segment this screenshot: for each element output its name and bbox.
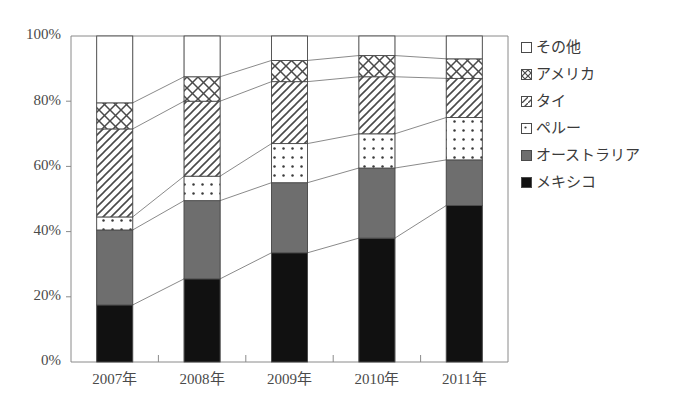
chart-legend: その他アメリカタイペルーオーストラリアメキシコ (521, 34, 673, 196)
bar-group[interactable] (272, 36, 308, 362)
legend-swatch-empty (521, 42, 532, 53)
y-tick-label: 0% (41, 352, 61, 368)
legend-label: オーストラリア (536, 148, 640, 163)
legend-label: メキシコ (536, 175, 596, 190)
bar-segment[interactable] (359, 238, 395, 362)
legend-label: その他 (536, 40, 581, 55)
stacked-bar-chart: 0%20%40%60%80%100%2007年2008年2009年2010年20… (0, 0, 675, 410)
y-tick-label: 60% (34, 157, 62, 173)
bar-segment[interactable] (446, 206, 482, 362)
bar-segment[interactable] (446, 118, 482, 160)
x-tick-label: 2010年 (354, 371, 399, 387)
legend-item[interactable]: オーストラリア (521, 142, 673, 169)
x-tick-label: 2009年 (267, 371, 312, 387)
bar-segment[interactable] (359, 77, 395, 134)
x-tick-label: 2007年 (92, 371, 137, 387)
bar-segment[interactable] (97, 129, 133, 217)
legend-swatch-diagonal (521, 96, 532, 107)
bar-segment[interactable] (184, 176, 220, 200)
y-tick-label: 20% (34, 287, 62, 303)
bar-segment[interactable] (359, 56, 395, 77)
bar-segment[interactable] (184, 101, 220, 176)
x-tick-label: 2008年 (180, 371, 225, 387)
bar-segment[interactable] (359, 134, 395, 168)
bar-segment[interactable] (184, 201, 220, 279)
bar-segment[interactable] (97, 36, 133, 103)
bar-segment[interactable] (97, 230, 133, 305)
legend-item[interactable]: ペルー (521, 115, 673, 142)
bar-group[interactable] (359, 36, 395, 362)
bar-segment[interactable] (446, 59, 482, 79)
bar-segment[interactable] (97, 217, 133, 230)
y-axis-ticks: 0%20%40%60%80%100% (26, 26, 71, 368)
legend-swatch-dotted (521, 123, 532, 134)
bar-group[interactable] (184, 36, 220, 362)
bar-segment[interactable] (272, 183, 308, 253)
legend-item[interactable]: メキシコ (521, 169, 673, 196)
bar-segment[interactable] (272, 36, 308, 60)
legend-swatch-crosshatch (521, 69, 532, 80)
legend-label: ペルー (536, 121, 581, 136)
bar-segment[interactable] (446, 36, 482, 59)
bar-segment[interactable] (272, 253, 308, 362)
legend-label: タイ (536, 94, 566, 109)
bar-segment[interactable] (184, 279, 220, 362)
chart-canvas: 0%20%40%60%80%100%2007年2008年2009年2010年20… (0, 0, 515, 410)
bar-segment[interactable] (184, 36, 220, 77)
x-tick-label: 2011年 (442, 371, 486, 387)
bar-group[interactable] (446, 36, 482, 362)
y-tick-label: 40% (34, 222, 62, 238)
bar-segment[interactable] (272, 82, 308, 144)
bar-segment[interactable] (184, 77, 220, 101)
legend-item[interactable]: タイ (521, 88, 673, 115)
bar-group[interactable] (97, 36, 133, 362)
y-tick-label: 100% (26, 26, 61, 42)
bar-segment[interactable] (272, 144, 308, 183)
x-axis-labels: 2007年2008年2009年2010年2011年 (92, 371, 486, 387)
bar-segment[interactable] (97, 305, 133, 362)
bar-segment[interactable] (446, 160, 482, 206)
plot-area: 0%20%40%60%80%100%2007年2008年2009年2010年20… (0, 0, 515, 410)
legend-swatch-solid-black (521, 177, 532, 188)
legend-item[interactable]: その他 (521, 34, 673, 61)
legend-item[interactable]: アメリカ (521, 61, 673, 88)
bar-segment[interactable] (97, 103, 133, 129)
bar-segment[interactable] (446, 78, 482, 117)
y-tick-label: 80% (34, 92, 62, 108)
legend-label: アメリカ (536, 67, 595, 82)
bar-segment[interactable] (359, 36, 395, 56)
bar-segment[interactable] (359, 168, 395, 238)
legend-swatch-solid-gray (521, 150, 532, 161)
bar-segment[interactable] (272, 60, 308, 81)
bars (97, 36, 483, 362)
